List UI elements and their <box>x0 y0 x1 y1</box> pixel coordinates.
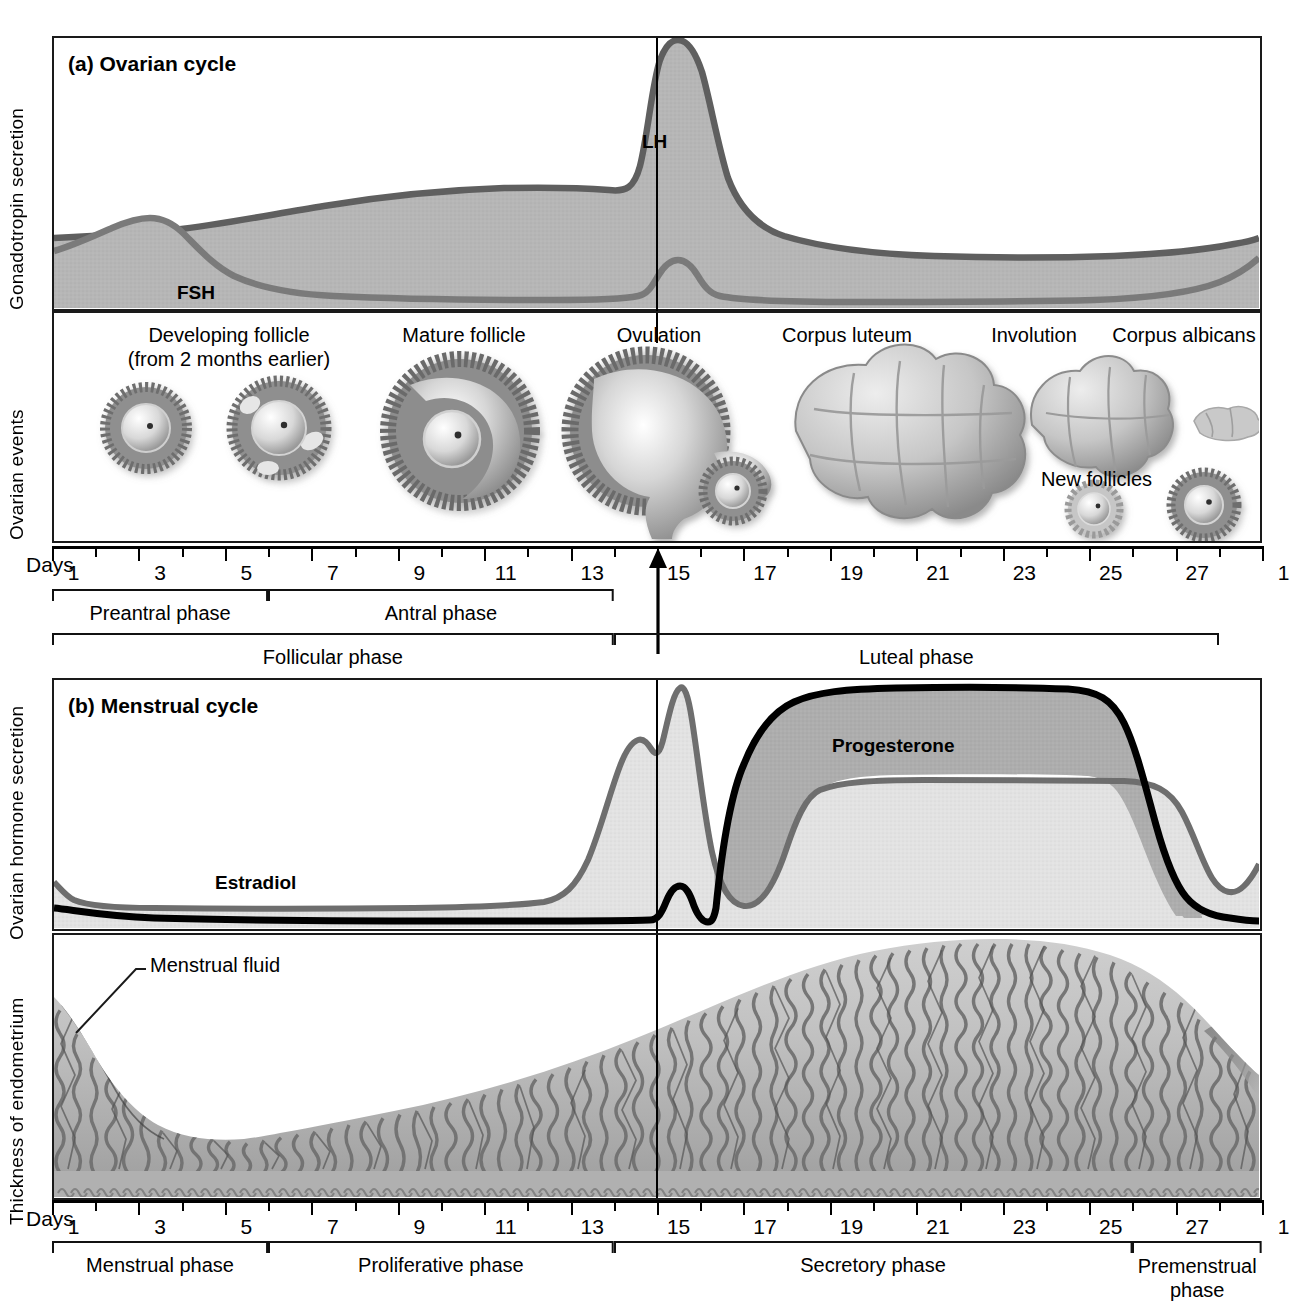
day-number: 25 <box>1089 1215 1133 1239</box>
lh-label: LH <box>642 131 667 153</box>
phase-bracket <box>268 1240 614 1254</box>
event-label-developing-follicle: Developing follicle (from 2 months earli… <box>84 324 374 371</box>
phase-brackets-b: Menstrual phaseProliferative phaseSecret… <box>52 1240 1262 1304</box>
corpus-albicans-structure <box>1194 407 1259 441</box>
day-tick <box>1262 1200 1264 1215</box>
phase-bracket <box>614 1240 1133 1254</box>
menstrual-fluid-annotation: Menstrual fluid <box>150 953 280 978</box>
ovulation-divider-a <box>656 38 658 313</box>
day-number: 7 <box>311 1215 355 1239</box>
day-number: 27 <box>1175 1215 1219 1239</box>
day-number: 3 <box>138 561 182 585</box>
panel-b-endometrium-axis-label: Thickness of endometrium <box>6 945 28 1225</box>
day-numbers-b: 135791113151719212325271 <box>52 1205 1262 1235</box>
panel-a-title: (a) Ovarian cycle <box>68 52 236 76</box>
phase-bracket-label: Secretory phase <box>614 1254 1133 1277</box>
day-number: 13 <box>570 1215 614 1239</box>
day-number: 19 <box>829 561 873 585</box>
phase-bracket <box>614 632 1219 646</box>
phase-bracket-label: Antral phase <box>268 602 614 625</box>
event-label-ovulation: Ovulation <box>594 324 724 348</box>
progesterone-label: Progesterone <box>832 735 954 757</box>
event-label-new-follicles: New follicles <box>1014 468 1179 492</box>
panel-b-title: (b) Menstrual cycle <box>68 694 258 718</box>
event-label-corpus-luteum: Corpus luteum <box>732 324 962 348</box>
day-number: 5 <box>224 561 268 585</box>
fsh-label: FSH <box>177 282 215 304</box>
event-label-corpus-albicans: Corpus albicans <box>1084 324 1284 348</box>
ovulation-divider-endometrium <box>656 935 658 1200</box>
phase-bracket <box>52 588 268 602</box>
day-number: 9 <box>397 561 441 585</box>
phase-bracket-label: Premenstrualphase <box>1114 1254 1280 1302</box>
phase-bracket <box>52 632 614 646</box>
panel-b-endometrium: Menstrual fluid <box>52 933 1262 1200</box>
day-number: 1 <box>1262 1215 1294 1239</box>
panel-a-ovarian-events-axis-label: Ovarian events <box>6 350 28 540</box>
phase-bracket <box>268 588 614 602</box>
day-number: 23 <box>1002 1215 1046 1239</box>
day-number: 1 <box>52 1215 96 1239</box>
menstrual-fluid-leader-line <box>64 965 154 1040</box>
new-follicle-2 <box>1171 472 1237 538</box>
day-tick <box>1262 546 1264 561</box>
follicle-ovulating <box>570 355 771 539</box>
day-number: 1 <box>1262 561 1294 585</box>
day-number: 17 <box>743 561 787 585</box>
day-number: 3 <box>138 1215 182 1239</box>
estradiol-label: Estradiol <box>215 872 296 894</box>
day-number: 11 <box>484 1215 528 1239</box>
panel-b-hormone-axis-label: Ovarian hormone secretion <box>6 672 28 940</box>
phase-bracket-label: Luteal phase <box>614 646 1219 669</box>
phase-bracket-label: Menstrual phase <box>52 1254 268 1277</box>
panel-a-ovarian-events: Developing follicle (from 2 months earli… <box>52 311 1262 543</box>
phase-bracket <box>1132 1240 1262 1254</box>
day-number: 1 <box>52 561 96 585</box>
corpus-luteum-structure <box>795 345 1025 519</box>
day-number: 9 <box>397 1215 441 1239</box>
panel-a-gonadotropin-chart: (a) Ovarian cycle LH FSH <box>52 36 1262 311</box>
phase-bracket <box>52 1240 268 1254</box>
day-number: 13 <box>570 561 614 585</box>
follicle-mature <box>388 359 532 503</box>
day-number: 19 <box>829 1215 873 1239</box>
follicle-small-1 <box>105 387 187 469</box>
phase-bracket-label: Follicular phase <box>52 646 614 669</box>
day-number: 7 <box>311 561 355 585</box>
day-number: 17 <box>743 1215 787 1239</box>
day-number: 5 <box>224 1215 268 1239</box>
panel-b-hormone-chart: (b) Menstrual cycle Estradiol Progestero… <box>52 678 1262 931</box>
developing-follicle-text: Developing follicle <box>148 324 309 346</box>
developing-follicle-subtext: (from 2 months earlier) <box>128 348 330 370</box>
involution-structure <box>1031 356 1173 476</box>
day-number: 11 <box>484 561 528 585</box>
ovulation-divider-b <box>656 680 658 933</box>
phase-bracket-label: Preantral phase <box>52 602 268 625</box>
day-number: 23 <box>1002 561 1046 585</box>
day-number: 15 <box>657 1215 701 1239</box>
phase-bracket-label: Proliferative phase <box>268 1254 614 1277</box>
event-label-mature-follicle: Mature follicle <box>354 324 574 348</box>
panel-a-gonadotropin-axis-label: Gonadotropin secretion <box>6 40 28 310</box>
day-number: 21 <box>916 1215 960 1239</box>
day-number: 27 <box>1175 561 1219 585</box>
day-number: 25 <box>1089 561 1133 585</box>
day-number: 21 <box>916 561 960 585</box>
phase-brackets-a: Preantral phaseAntral phaseFollicular ph… <box>52 588 1262 660</box>
follicle-small-2 <box>232 381 326 475</box>
